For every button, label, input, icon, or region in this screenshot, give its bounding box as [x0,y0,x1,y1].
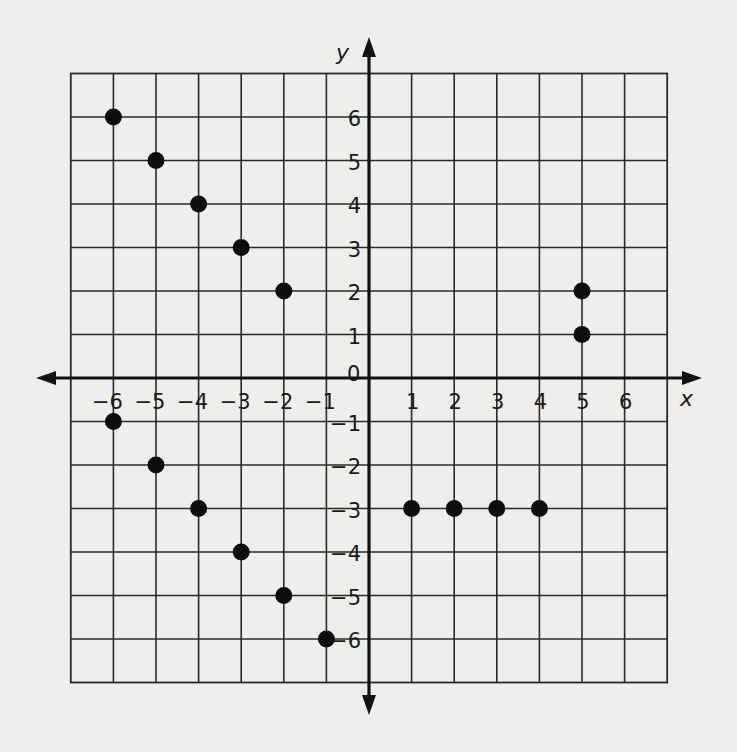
data-point [275,283,292,300]
arrow-left-icon [36,371,56,385]
coordinate-plane: −6−5−4−3−2−1123456 −6−5−4−3−2−1123456 0 … [0,0,737,752]
data-point [531,500,548,517]
data-point [233,239,250,256]
data-point [190,196,207,213]
y-tick-label: −6 [330,629,361,653]
data-point [148,457,165,474]
arrow-right-icon [682,371,702,385]
data-point [488,500,505,517]
x-axis-title: x [679,386,694,411]
data-point [233,544,250,561]
data-point [574,326,591,343]
x-tick-label: 2 [449,390,462,414]
x-tick-label: 6 [619,390,632,414]
data-point [574,283,591,300]
x-tick-label: −5 [135,390,166,414]
y-tick-label: −5 [330,586,361,610]
x-tick-label: −4 [177,390,208,414]
data-point [403,500,420,517]
data-point [105,109,122,126]
x-tick-label: −1 [305,390,336,414]
x-tick-label: 1 [406,390,419,414]
x-tick-label: 4 [534,390,547,414]
y-tick-label: −4 [330,542,361,566]
data-point [446,500,463,517]
data-point [148,152,165,169]
y-tick-label: 1 [348,325,361,349]
arrow-down-icon [362,695,376,715]
data-point [275,587,292,604]
y-tick-label: −3 [330,499,361,523]
y-tick-label: 5 [348,151,361,175]
data-point [318,631,335,648]
origin-label: 0 [347,362,360,386]
y-tick-label: −1 [330,412,361,436]
x-tick-label: −2 [262,390,293,414]
x-tick-label: −6 [92,390,123,414]
x-tick-label: 5 [576,390,589,414]
arrow-up-icon [362,37,376,57]
x-tick-label: 3 [491,390,504,414]
x-tick-label: −3 [220,390,251,414]
y-axis-title: y [335,40,350,65]
y-tick-label: 4 [348,194,361,218]
y-tick-label: 3 [348,238,361,262]
y-tick-label: 2 [348,281,361,305]
y-tick-label: −2 [330,455,361,479]
data-point [190,500,207,517]
y-tick-label: 6 [348,107,361,131]
axes [36,37,702,715]
x-tick-labels: −6−5−4−3−2−1123456 [92,390,632,414]
data-point [105,413,122,430]
